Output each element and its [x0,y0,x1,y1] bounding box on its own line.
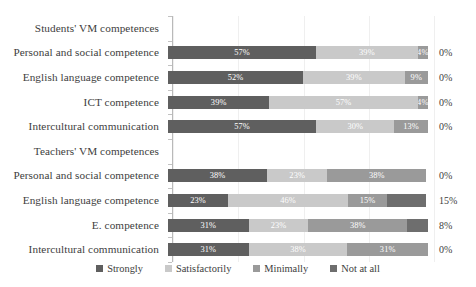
bar-segment-satisfactorily: 23% [249,219,309,232]
legend-label: Not at all [341,263,380,274]
bar-segment-satisfactorily: 39% [303,71,404,84]
bar-segment-minimally: 13% [394,120,428,133]
bar-segment-value-label: 39% [359,46,375,59]
bar-segment-value-label: 52% [228,71,244,84]
legend-swatch-icon [165,265,172,272]
bar-segment-satisfactorily: 57% [269,96,417,109]
bar-segment-value-label: 38% [210,169,226,182]
row-label: Intercultural communication [0,243,166,256]
bar-segment-strongly: 39% [168,96,269,109]
bar-segment-satisfactorily: 30% [316,120,394,133]
legend-item-notatall[interactable]: Not at all [330,263,380,274]
bar-segment-not-at-all [407,219,428,232]
bar-segment-strongly: 23% [168,194,228,207]
bar-segment-value-label: 31% [200,243,216,256]
legend-label: Minimally [264,263,308,274]
bar-segment-strongly: 38% [168,169,267,182]
bar-track [168,22,428,35]
bar-segment-satisfactorily: 23% [267,169,327,182]
chart-group-row: Students' VM competences [0,16,476,41]
bar-segment-value-label: 39% [211,96,227,109]
bar-segment-value-label: 31% [380,243,396,256]
outside-value-label: 0% [428,72,470,83]
chart-data-row: Personal and social competence38%23%38%0… [0,164,476,189]
outside-value-label: 0% [428,121,470,132]
bar-segment-satisfactorily: 39% [316,46,417,59]
bar-track [168,145,428,158]
chart-data-row: English language competence52%39%9%0% [0,65,476,90]
row-label: English language competence [0,194,166,207]
legend-item-minimally[interactable]: Minimally [253,263,308,274]
bar-segment-strongly: 57% [168,120,316,133]
chart-data-row: Personal and social competence57%39%4%0% [0,41,476,66]
chart-data-row: English language competence23%46%15%15% [0,188,476,213]
bar-segment-strongly: 57% [168,46,316,59]
bar-segment-value-label: 23% [271,219,287,232]
chart-data-row: Intercultural communication31%38%31%0% [0,237,476,262]
chart-data-row: Intercultural communication57%30%13%0% [0,114,476,139]
bar-segment-strongly: 31% [168,219,249,232]
bar-segment-value-label: 15% [360,194,376,207]
bar-segment-value-label: 23% [289,169,305,182]
bar-track: 39%57%4% [168,96,428,109]
bar-segment-value-label: 31% [200,219,216,232]
bar-segment-value-label: 57% [234,46,250,59]
outside-value-label: 8% [428,220,470,231]
legend-label: Satisfactorily [176,263,231,274]
bar-segment-value-label: 9% [411,71,422,84]
chart-data-row: E. competence31%23%38%8% [0,213,476,238]
bar-segment-minimally: 15% [348,194,387,207]
bar-segment-minimally: 4% [418,96,428,109]
bar-segment-value-label: 4% [418,96,428,109]
row-label: Intercultural communication [0,120,166,133]
stacked-bar-chart: Students' VM competencesPersonal and soc… [0,0,476,287]
bar-segment-value-label: 57% [234,120,250,133]
bar-track: 57%39%4% [168,46,428,59]
bar-segment-value-label: 30% [347,120,363,133]
bar-segment-value-label: 46% [280,194,296,207]
row-label: Students' VM competences [0,22,166,35]
bar-track: 31%38%31% [168,243,428,256]
outside-value-label: 15% [428,195,470,206]
bar-segment-value-label: 38% [290,243,306,256]
bar-track: 38%23%38% [168,169,428,182]
bar-segment-minimally: 31% [347,243,428,256]
outside-value-label: 0% [428,47,470,58]
bar-track: 52%39%9% [168,71,428,84]
legend-swatch-icon [96,265,103,272]
row-label: Personal and social competence [0,169,166,182]
row-label: ICT competence [0,96,166,109]
legend-label: Strongly [107,263,143,274]
bar-segment-minimally: 9% [405,71,428,84]
chart-legend: StronglySatisfactorilyMinimallyNot at al… [0,263,476,274]
bar-segment-value-label: 57% [336,96,352,109]
bar-segment-strongly: 31% [168,243,249,256]
row-label: E. competence [0,219,166,232]
bar-segment-value-label: 4% [418,46,428,59]
bar-segment-value-label: 23% [190,194,206,207]
legend-item-strongly[interactable]: Strongly [96,263,143,274]
legend-swatch-icon [330,265,337,272]
bar-segment-minimally: 38% [308,219,407,232]
bar-track: 31%23%38% [168,219,428,232]
bar-segment-value-label: 38% [369,169,385,182]
bar-segment-minimally: 38% [327,169,426,182]
bar-segment-satisfactorily: 38% [249,243,348,256]
outside-value-label: 0% [428,244,470,255]
legend-swatch-icon [253,265,260,272]
legend-item-satisfactorily[interactable]: Satisfactorily [165,263,231,274]
bar-segment-value-label: 13% [403,120,419,133]
bar-segment-value-label: 39% [346,71,362,84]
bar-segment-value-label: 38% [350,219,366,232]
outside-value-label: 0% [428,97,470,108]
row-label: English language competence [0,71,166,84]
bar-segment-minimally: 4% [418,46,428,59]
bar-track: 57%30%13% [168,120,428,133]
chart-data-row: ICT competence39%57%4%0% [0,90,476,115]
bar-track: 23%46%15% [168,194,428,207]
bar-segment-not-at-all [387,194,426,207]
bar-segment-strongly: 52% [168,71,303,84]
outside-value-label: 0% [428,170,470,181]
row-label: Teachers' VM competences [0,145,166,158]
row-label: Personal and social competence [0,46,166,59]
